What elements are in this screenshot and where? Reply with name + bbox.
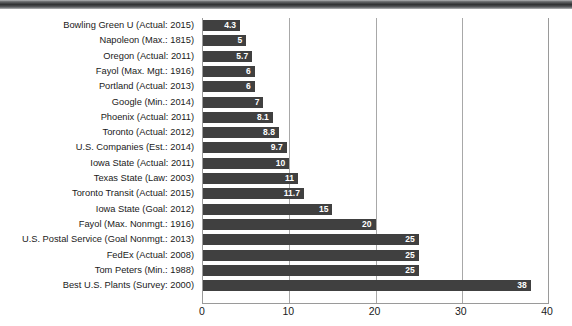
- bar-row[interactable]: 4.3: [203, 18, 548, 33]
- bar-chart-figure: Bowling Green U (Actual: 2015)Napoleon (…: [0, 0, 572, 326]
- bar-row[interactable]: 15: [203, 202, 548, 217]
- x-tick-label: 0: [199, 305, 205, 317]
- category-label: Iowa State (Actual: 2011): [90, 156, 194, 171]
- decorative-top-strip: [0, 0, 572, 9]
- x-tick-label: 40: [541, 305, 553, 317]
- x-tick-label: 20: [369, 305, 381, 317]
- bar-value-label: 8.8: [203, 127, 279, 138]
- bar-row[interactable]: 7: [203, 95, 548, 110]
- bar-value-label: 20: [203, 219, 376, 230]
- bar-row[interactable]: 8.1: [203, 110, 548, 125]
- bar-row[interactable]: 5: [203, 33, 548, 48]
- bar-row[interactable]: 25: [203, 248, 548, 263]
- bar-row[interactable]: 25: [203, 263, 548, 278]
- bar-row[interactable]: 20: [203, 217, 548, 232]
- x-axis-tick-labels: 010203040: [202, 305, 549, 321]
- bar-value-label: 25: [203, 250, 419, 261]
- bar-row[interactable]: 5.7: [203, 49, 548, 64]
- category-axis-labels: Bowling Green U (Actual: 2015)Napoleon (…: [0, 18, 198, 303]
- category-label: Portland (Actual: 2013): [99, 79, 194, 94]
- bar-value-label: 10: [203, 158, 289, 169]
- bar-value-label: 25: [203, 265, 419, 276]
- category-label: Toronto (Actual: 2012): [103, 125, 194, 140]
- plot-area: 4.355.76678.18.89.7101111.7152025252538: [202, 18, 549, 304]
- category-label: Bowling Green U (Actual: 2015): [63, 18, 194, 33]
- bar-value-label: 7: [203, 97, 263, 108]
- bar-row[interactable]: 25: [203, 232, 548, 247]
- bar-row[interactable]: 6: [203, 64, 548, 79]
- bar-value-label: 5.7: [203, 51, 252, 62]
- bar-value-label: 6: [203, 81, 255, 92]
- bar-row[interactable]: 8.8: [203, 125, 548, 140]
- bar-value-label: 8.1: [203, 112, 273, 123]
- bar-row[interactable]: 9.7: [203, 140, 548, 155]
- bar-row[interactable]: 11: [203, 171, 548, 186]
- category-label: Fayol (Max. Mgt.: 1916): [96, 64, 194, 79]
- category-label: Toronto Transit (Actual: 2015): [72, 186, 194, 201]
- bar-value-label: 6: [203, 66, 255, 77]
- bar-value-label: 5: [203, 35, 246, 46]
- category-label: Best U.S. Plants (Survey: 2000): [63, 278, 194, 293]
- category-label: U.S. Postal Service (Goal Nonmgt.: 2013): [22, 232, 194, 247]
- category-label: Oregon (Actual: 2011): [103, 49, 194, 64]
- bar-value-label: 25: [203, 234, 419, 245]
- bar-rows: 4.355.76678.18.89.7101111.7152025252538: [203, 18, 548, 303]
- category-label: U.S. Companies (Est.: 2014): [76, 140, 194, 155]
- bar-value-label: 9.7: [203, 142, 287, 153]
- category-label: Napoleon (Max.: 1815): [99, 33, 194, 48]
- bar-value-label: 11.7: [203, 188, 304, 199]
- bar-row[interactable]: 38: [203, 278, 548, 293]
- bar-value-label: 11: [203, 173, 298, 184]
- x-tick-label: 10: [282, 305, 294, 317]
- bar-value-label: 38: [203, 280, 531, 291]
- category-label: Google (Min.: 2014): [112, 95, 194, 110]
- category-label: Phoenix (Actual: 2011): [101, 110, 194, 125]
- x-tick-label: 30: [455, 305, 467, 317]
- category-label: Tom Peters (Min.: 1988): [95, 263, 194, 278]
- bar-row[interactable]: 11.7: [203, 186, 548, 201]
- bar-row[interactable]: 6: [203, 79, 548, 94]
- bar-value-label: 4.3: [203, 20, 240, 31]
- bar-value-label: 15: [203, 204, 332, 215]
- category-label: Iowa State (Goal: 2012): [96, 202, 194, 217]
- category-label: Texas State (Law: 2003): [94, 171, 194, 186]
- category-label: FedEx (Actual: 2008): [107, 248, 194, 263]
- bar-row[interactable]: 10: [203, 156, 548, 171]
- category-label: Fayol (Max. Nonmgt.: 1916): [79, 217, 194, 232]
